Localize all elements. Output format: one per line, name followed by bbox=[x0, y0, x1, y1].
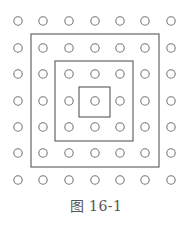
grid-dot bbox=[167, 97, 175, 105]
grid-dot bbox=[141, 70, 149, 78]
outer-square bbox=[31, 34, 159, 167]
grid-dot bbox=[39, 17, 47, 25]
inner-square bbox=[79, 87, 110, 117]
grid-dot bbox=[141, 123, 149, 131]
grid-dot bbox=[167, 44, 175, 52]
grid-dot bbox=[167, 17, 175, 25]
grid-dot bbox=[91, 97, 99, 105]
grid-dot bbox=[116, 149, 124, 157]
grid-dot bbox=[39, 149, 47, 157]
grid-dot bbox=[91, 149, 99, 157]
grid-dot bbox=[91, 176, 99, 184]
grid-dot bbox=[141, 149, 149, 157]
grid-dot bbox=[65, 44, 73, 52]
grid-dot bbox=[116, 97, 124, 105]
grid-dot bbox=[167, 176, 175, 184]
grid-dot bbox=[14, 97, 22, 105]
grid-dot bbox=[116, 176, 124, 184]
grid-dot bbox=[116, 123, 124, 131]
grid-dot bbox=[116, 17, 124, 25]
grid-dot bbox=[14, 176, 22, 184]
grid-dot bbox=[116, 70, 124, 78]
grid-dot bbox=[39, 44, 47, 52]
grid-dot bbox=[65, 97, 73, 105]
figure-caption: 图 16-1 bbox=[0, 195, 192, 215]
grid-dot bbox=[65, 17, 73, 25]
grid-dot bbox=[65, 149, 73, 157]
grid-dot bbox=[14, 44, 22, 52]
grid-dot bbox=[65, 123, 73, 131]
grid-dot bbox=[39, 97, 47, 105]
grid-dot bbox=[141, 17, 149, 25]
grid-dot bbox=[116, 44, 124, 52]
grid-dot bbox=[39, 123, 47, 131]
middle-square bbox=[55, 61, 133, 141]
grid-dot bbox=[141, 176, 149, 184]
grid-dot bbox=[167, 123, 175, 131]
grid-dot bbox=[39, 70, 47, 78]
grid-dot bbox=[14, 149, 22, 157]
grid-dot bbox=[141, 97, 149, 105]
grid-dot bbox=[65, 176, 73, 184]
grid-dot bbox=[167, 70, 175, 78]
grid-dot bbox=[14, 70, 22, 78]
grid-dot bbox=[14, 123, 22, 131]
grid-dot bbox=[91, 17, 99, 25]
grid-dot bbox=[39, 176, 47, 184]
grid-dot bbox=[91, 70, 99, 78]
grid-dot bbox=[14, 17, 22, 25]
grid-dot bbox=[141, 44, 149, 52]
grid-dot bbox=[167, 149, 175, 157]
grid-dot bbox=[91, 123, 99, 131]
grid-dot bbox=[65, 70, 73, 78]
grid-dot bbox=[91, 44, 99, 52]
dot-grid-diagram bbox=[0, 0, 192, 227]
